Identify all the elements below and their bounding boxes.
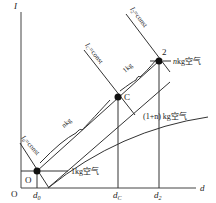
tick-dc: dC [113,190,123,201]
parallel-line [48,82,170,188]
isoline-i2-label: I2=const [127,5,149,30]
air-mix-label: (1+n) kg空气 [143,111,187,121]
segment-1kg-label: 1kg [121,61,135,74]
saturation-curve [48,117,208,188]
air-1kg-label: 1kg空气 [71,166,99,176]
point-2-dot [156,58,163,65]
origin-label: O [11,189,18,199]
tick-d2: d2 [154,190,162,201]
point-c-dot [115,94,122,101]
mixing-process-diagram: I d O O C 2 d0 dC d2 I0=const IC=const I… [0,0,216,203]
point-2-label: 2 [162,47,167,57]
point-o-label: O [25,175,32,185]
y-axis-label: I [13,1,18,11]
segment-nkg-label: nkg [60,116,74,129]
x-axis-label: d [200,183,205,193]
tick-d0: d0 [33,190,41,201]
air-nkg-label: nkg空气 [173,56,201,66]
point-o-dot [34,168,41,175]
point-c-label: C [124,92,130,102]
